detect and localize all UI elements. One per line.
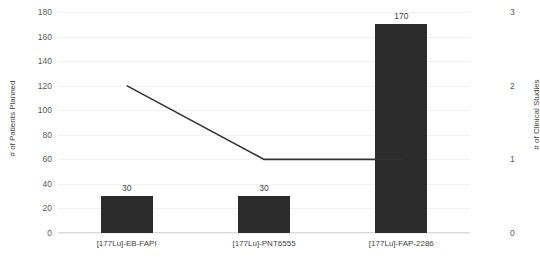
line-series-path	[127, 86, 402, 160]
y-axis-left-tick-label: 140	[18, 56, 52, 66]
y-axis-right-title: # of Clinical Studies	[532, 65, 540, 165]
x-axis-category-label: [177Lu]-PNT6555	[194, 238, 334, 249]
y-axis-left-tick-label: 180	[18, 7, 52, 17]
y-axis-right-tick-label: 3	[510, 7, 536, 17]
x-axis-category-label: [177Lu]-FAP-2286	[331, 238, 471, 249]
gridline	[58, 233, 470, 234]
y-axis-left-tick-label: 0	[18, 228, 52, 238]
y-axis-right-tick-label: 0	[510, 228, 536, 238]
y-axis-left-tick-label: 60	[18, 154, 52, 164]
y-axis-left-tick-label: 160	[18, 32, 52, 42]
y-axis-right-tick-label: 2	[510, 81, 536, 91]
y-axis-right-tick-label: 1	[510, 154, 536, 164]
y-axis-left-tick-label: 80	[18, 130, 52, 140]
y-axis-left-tick-label: 120	[18, 81, 52, 91]
plot-area	[58, 12, 470, 233]
y-axis-left-title: # of Patients Planned	[8, 69, 17, 169]
y-axis-left-tick-label: 20	[18, 203, 52, 213]
y-axis-left-tick-label: 40	[18, 179, 52, 189]
x-axis-category-label: [177Lu]-EB-FAPI	[57, 238, 197, 249]
bar-value-label: 170	[371, 11, 431, 22]
combo-chart: # of Patients Planned # of Clinical Stud…	[0, 0, 540, 258]
bar-value-label: 30	[97, 183, 157, 194]
bar-value-label: 30	[234, 183, 294, 194]
y-axis-left-tick-label: 100	[18, 105, 52, 115]
line-series	[58, 12, 470, 233]
